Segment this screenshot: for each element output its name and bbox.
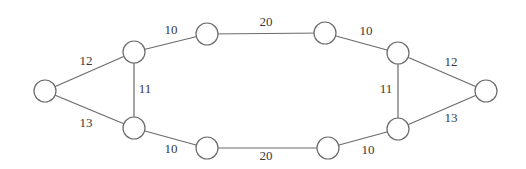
edge-weight-label: 10 (165, 22, 178, 37)
node-n3 (123, 117, 145, 139)
node-n9 (387, 118, 409, 140)
edge-weight-label: 20 (260, 14, 273, 29)
edge-weight-label: 11 (139, 81, 152, 96)
edge-weight-label: 12 (445, 54, 458, 69)
node-n5 (196, 137, 218, 159)
edge-weight-label: 11 (380, 81, 393, 96)
node-n8 (387, 42, 409, 64)
node-n1 (34, 80, 56, 102)
edge-n4-n6 (207, 33, 325, 34)
node-n4 (196, 23, 218, 45)
edge-weight-label: 10 (360, 23, 373, 38)
edges-group (45, 33, 486, 148)
edge-labels-group: 121311101020201010111213 (80, 14, 458, 163)
edge-weight-label: 13 (80, 115, 93, 130)
node-n2 (123, 41, 145, 63)
edge-weight-label: 10 (165, 141, 178, 156)
edge-weight-label: 13 (445, 110, 458, 125)
node-n7 (317, 137, 339, 159)
nodes-group (34, 22, 497, 159)
node-n10 (475, 80, 497, 102)
edge-weight-label: 12 (80, 53, 93, 68)
edge-weight-label: 20 (260, 148, 273, 163)
edge-weight-label: 10 (362, 142, 375, 157)
edge-n9-n10 (398, 91, 486, 129)
graph-diagram: 121311101020201010111213 (0, 0, 526, 169)
node-n6 (314, 22, 336, 44)
edge-n8-n10 (398, 53, 486, 91)
